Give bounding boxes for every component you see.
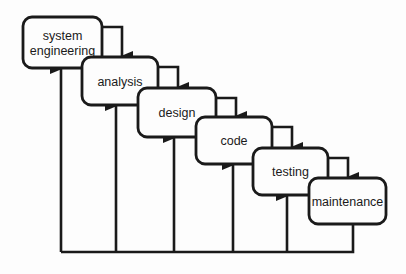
phase-label: analysis <box>97 75 142 89</box>
flow-arrow-system-engineering-to-analysis <box>102 27 122 56</box>
phase-label: engineering <box>30 44 95 58</box>
phase-label: code <box>220 134 247 148</box>
flow-arrow-testing-to-maintenance <box>328 158 348 177</box>
flow-arrow-code-to-testing <box>272 127 292 147</box>
waterfall-diagram: systemengineeringanalysisdesigncodetesti… <box>0 0 406 274</box>
flow-arrow-design-to-code <box>216 98 236 116</box>
phase-label: maintenance <box>312 195 384 209</box>
phase-boxes: systemengineeringanalysisdesigncodetesti… <box>23 17 386 224</box>
phase-label: testing <box>272 165 309 179</box>
phase-label: system <box>43 29 83 43</box>
phase-maintenance: maintenance <box>309 178 386 224</box>
feedback-bus <box>61 224 353 252</box>
phase-label: design <box>159 106 196 120</box>
flow-arrow-analysis-to-design <box>158 67 178 87</box>
